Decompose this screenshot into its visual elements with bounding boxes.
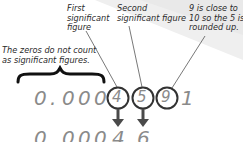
- digit: 0: [62, 126, 76, 142]
- pointer-line-third: [172, 36, 205, 88]
- rounded-digit-second: 6: [137, 126, 151, 142]
- digit: 0: [78, 126, 92, 142]
- digit: 0: [62, 86, 76, 110]
- digit: 0: [78, 86, 92, 110]
- pointer-line-second: [129, 26, 142, 87]
- trailing-digit: 1: [181, 86, 195, 110]
- pointer-line-first: [86, 31, 117, 87]
- digit: 0: [34, 86, 48, 110]
- digit: 0: [34, 126, 48, 142]
- decimal-point: .: [50, 126, 57, 142]
- circled-digit-first: 4: [112, 88, 123, 106]
- curly-brace-icon: [18, 68, 104, 82]
- arrow-down-icon: [112, 109, 124, 127]
- circled-digit-second: 5: [137, 88, 148, 106]
- arrow-down-icon: [137, 109, 149, 127]
- rounded-digit-first: 4: [112, 126, 126, 142]
- digit: 0: [94, 86, 108, 110]
- diagram-graphics: [0, 0, 243, 142]
- digit: 0: [94, 126, 108, 142]
- decimal-point: .: [50, 86, 57, 110]
- circled-digit-third: 9: [161, 88, 172, 106]
